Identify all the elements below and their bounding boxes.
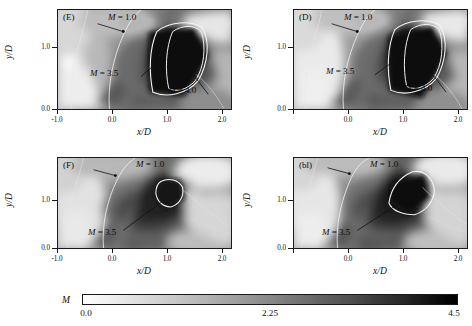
xtick-label-bl-1: 0.0 — [344, 255, 353, 263]
xtick-mark-d-2 — [403, 110, 404, 114]
colorbar-gradient — [82, 294, 458, 305]
contour-label-e-m40: M = 4.0 — [168, 85, 196, 95]
xtick-label-d-2: 1.0 — [399, 116, 408, 124]
xtick-mark-e-1 — [112, 110, 113, 114]
xlabel-d: x/D — [373, 126, 387, 137]
leader-m35-d — [375, 59, 397, 75]
xtick-label-e-0: -1.0 — [52, 116, 63, 124]
contour-label-f-m1: M = 1.0 — [136, 159, 164, 169]
xtick-mark-e-0 — [57, 110, 58, 114]
xtick-label-f-3: 2.0 — [218, 255, 227, 263]
xtick-label-d-1: 0.0 — [344, 116, 353, 124]
xtick-label-bl-2: 1.0 — [399, 255, 408, 263]
contour-label-f-m35: M = 3.5 — [88, 227, 116, 237]
ytick-label-bl-0: 0.0 — [270, 244, 286, 252]
colorbar-tick-mid: 2.25 — [262, 308, 278, 318]
ytick-mark-e-1 — [52, 47, 57, 48]
xtick-label-f-2: 1.0 — [163, 255, 172, 263]
ylabel-d: y/D — [241, 45, 252, 59]
ytick-label-f-1: 1.0 — [34, 196, 50, 204]
contour-lines-e — [58, 10, 231, 109]
xtick-mark-e-2 — [167, 110, 168, 114]
ytick-label-d-1: 1.0 — [270, 43, 286, 51]
contour-panel-f — [57, 157, 232, 249]
xtick-mark-e-3 — [222, 110, 223, 114]
xtick-mark-f-1 — [112, 249, 113, 253]
contour-panel-bl — [293, 157, 468, 249]
xtick-mark-bl-1 — [348, 249, 349, 253]
contour-label-e-m35: M = 3.5 — [90, 68, 118, 78]
ytick-mark-d-1 — [288, 47, 293, 48]
panel-tag-bl: (bl) — [299, 160, 312, 170]
contour-lines-f — [58, 158, 231, 248]
xlabel-f: x/D — [137, 265, 151, 276]
panel-tag-f: (F) — [63, 160, 74, 170]
contour-label-bl-m35: M = 3.5 — [322, 227, 350, 237]
colorbar-tick-min: 0.0 — [80, 308, 91, 318]
contour-line-m35-bl — [389, 171, 434, 214]
xtick-mark-f-0 — [57, 249, 58, 253]
ytick-label-bl-1: 1.0 — [270, 196, 286, 204]
leader-m1-e — [98, 24, 124, 32]
leader-m35-bl — [357, 205, 397, 230]
contour-line-m1-e — [109, 10, 141, 109]
leader-m35-f — [123, 201, 163, 230]
ytick-mark-f-1 — [52, 200, 57, 201]
colorbar-symbol: M — [62, 294, 70, 305]
xtick-mark-d-1 — [348, 110, 349, 114]
colorbar — [82, 294, 458, 305]
xtick-mark-d-0 — [293, 110, 294, 114]
contour-label-d-m1: M = 1.0 — [344, 12, 372, 22]
contour-panel-d — [293, 9, 468, 110]
figure-canvas: (E) M = 1.0 M = 3.5 M = 4.0 1.0 0.0 y/D … — [0, 0, 472, 326]
leader-m1-f — [94, 170, 116, 176]
ytick-label-d-0: 0.0 — [270, 105, 286, 113]
contour-panel-e — [57, 9, 232, 110]
ytick-label-f-0: 0.0 — [34, 244, 50, 252]
xtick-mark-bl-0 — [293, 249, 294, 253]
leader-m1-bl — [328, 168, 350, 174]
panel-tag-e: (E) — [63, 12, 75, 22]
xtick-mark-bl-3 — [458, 249, 459, 253]
xlabel-bl: x/D — [373, 265, 387, 276]
leader-m1-d — [332, 24, 358, 32]
contour-label-e-m1: M = 1.0 — [108, 12, 136, 22]
xtick-mark-f-2 — [167, 249, 168, 253]
contour-label-bl-m1: M = 1.0 — [370, 159, 398, 169]
xtick-mark-bl-2 — [403, 249, 404, 253]
contour-lines-d — [294, 10, 467, 109]
xtick-label-e-1: 0.0 — [108, 116, 117, 124]
ylabel-bl: y/D — [241, 193, 252, 207]
xlabel-e: x/D — [137, 126, 151, 137]
xtick-label-f-0: -1.0 — [52, 255, 63, 263]
contour-line-m1-d — [343, 10, 375, 109]
xtick-label-e-3: 2.0 — [218, 116, 227, 124]
ylabel-f: y/D — [3, 193, 14, 207]
xtick-mark-d-3 — [458, 110, 459, 114]
ylabel-e: y/D — [3, 45, 14, 59]
panel-tag-d: (D) — [299, 12, 312, 22]
contour-lines-bl — [294, 158, 467, 248]
colorbar-tick-max: 4.5 — [448, 308, 459, 318]
ytick-label-e-1: 1.0 — [34, 43, 50, 51]
xtick-mark-f-3 — [222, 249, 223, 253]
xtick-label-d-3: 2.0 — [454, 116, 463, 124]
contour-label-d-m35: M = 3.5 — [326, 66, 354, 76]
ytick-label-e-0: 0.0 — [34, 105, 50, 113]
xtick-label-e-2: 1.0 — [163, 116, 172, 124]
ytick-mark-bl-1 — [288, 200, 293, 201]
xtick-label-bl-3: 2.0 — [454, 255, 463, 263]
xtick-label-f-1: 0.0 — [108, 255, 117, 263]
contour-label-d-m40: M = 4.0 — [404, 83, 432, 93]
